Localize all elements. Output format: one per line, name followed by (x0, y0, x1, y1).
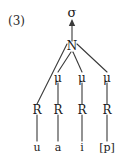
node-segment-1: u (33, 142, 40, 154)
node-mora-2: μ (78, 72, 86, 84)
edge-nucleus-to-mora-1 (58, 52, 71, 72)
node-nucleus: N (67, 40, 78, 52)
node-root-3: R (77, 104, 86, 116)
edge-nucleus-to-mora-2 (73, 52, 82, 72)
node-mora-1: μ (54, 72, 62, 84)
node-root-1: R (32, 104, 41, 116)
node-segment-3: i (80, 142, 84, 154)
arrowhead-icon (69, 19, 75, 26)
node-syllable: σ (68, 7, 77, 19)
syllable-tree-figure: (3) σ N μ μ μ R R R R (0, 0, 124, 159)
edge-syllable-to-root-1 (37, 44, 67, 104)
edge-syllable-to-mora-3 (77, 44, 107, 72)
node-root-2: R (53, 104, 62, 116)
node-segment-4: [p] (99, 142, 115, 154)
node-segment-2: a (55, 142, 62, 154)
node-mora-3: μ (103, 72, 111, 84)
node-root-4: R (102, 104, 111, 116)
